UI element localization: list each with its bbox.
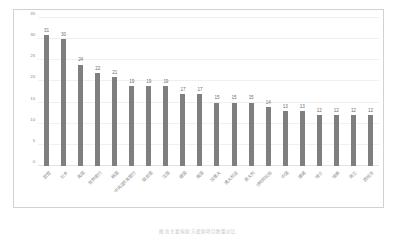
x-axis-tick-label: 中国 (280, 170, 290, 180)
bar-value-label: 17 (180, 88, 185, 93)
bar-group[interactable]: 19 (123, 18, 140, 166)
x-axis-label-slot: 欧盟 (38, 168, 55, 210)
bar-value-label: 22 (95, 67, 100, 72)
bar-group[interactable]: 13 (277, 18, 294, 166)
bar-group[interactable]: 24 (72, 18, 89, 166)
bar-group[interactable]: 17 (191, 18, 208, 166)
x-axis-tick-label: 瑞典 (331, 170, 341, 180)
bar[interactable] (351, 115, 356, 166)
bar[interactable] (300, 111, 305, 166)
x-axis-label-slot: 意大利 (243, 168, 260, 210)
bar[interactable] (214, 103, 219, 166)
chart-frame: 05101520253035 3130242221191919171715151… (13, 9, 384, 208)
bar[interactable] (95, 73, 100, 166)
bar[interactable] (283, 111, 288, 166)
x-axis-tick-label: 欧盟 (41, 170, 51, 180)
bar[interactable] (197, 94, 202, 166)
x-axis-label-slot: 瑞士 (311, 168, 328, 210)
bar-group[interactable]: 12 (345, 18, 362, 166)
bar[interactable] (334, 115, 339, 166)
bar-group[interactable]: 17 (174, 18, 191, 166)
bar-group[interactable]: 30 (55, 18, 72, 166)
y-axis-tick-label: 25 (30, 53, 35, 58)
bar-value-label: 12 (334, 109, 339, 114)
x-axis-label-slot: 美国 (72, 168, 89, 210)
bar[interactable] (266, 107, 271, 166)
bar[interactable] (368, 115, 373, 166)
bar-value-label: 17 (197, 88, 202, 93)
bar-series: 3130242221191919171715151514131312121212 (38, 18, 379, 166)
bar[interactable] (232, 103, 237, 166)
plot-area: 05101520253035 3130242221191919171715151… (38, 18, 379, 166)
bar-group[interactable]: 12 (362, 18, 379, 166)
y-axis-tick-label: 20 (30, 74, 35, 79)
x-axis-tick-label: 世界银行 (87, 170, 102, 185)
bar-group[interactable]: 12 (328, 18, 345, 166)
x-axis-label-slot: 瑞典 (328, 168, 345, 210)
x-axis-tick-label: 瑞士 (314, 170, 324, 180)
x-axis-tick-label: 韩国 (109, 170, 119, 180)
x-axis-label-slot: 荷兰 (345, 168, 362, 210)
x-axis-label-slot: 日本 (55, 168, 72, 210)
y-axis-tick-label: 15 (30, 95, 35, 100)
bar-value-label: 30 (61, 33, 66, 38)
x-axis-label-slot: 英国 (191, 168, 208, 210)
x-axis-tick-label: 英国 (194, 170, 204, 180)
bar-group[interactable]: 19 (140, 18, 157, 166)
chart-screenshot: 05101520253035 3130242221191919171715151… (0, 0, 395, 245)
bar-value-label: 21 (112, 71, 117, 76)
bar-value-label: 24 (78, 58, 83, 63)
x-axis-label-slot: 中央亚开发银行 (123, 168, 140, 210)
x-axis-label-slot: 中国 (277, 168, 294, 210)
x-axis-tick-label: 加拿大 (209, 170, 222, 183)
bar-group[interactable]: 31 (38, 18, 55, 166)
x-axis-tick-label: 美国 (75, 170, 85, 180)
bar[interactable] (112, 77, 117, 166)
bar-value-label: 12 (317, 109, 322, 114)
bar-group[interactable]: 21 (106, 18, 123, 166)
y-axis-tick-label: 10 (30, 116, 35, 121)
bar-group[interactable]: 13 (294, 18, 311, 166)
x-axis-tick-label: 荷兰 (348, 170, 358, 180)
bar-value-label: 15 (249, 96, 254, 101)
bar[interactable] (317, 115, 322, 166)
x-axis-label-slot: 法国 (157, 168, 174, 210)
x-axis-tick-label: 法国 (160, 170, 170, 180)
bar[interactable] (61, 39, 66, 166)
bar-value-label: 15 (215, 96, 220, 101)
bar-group[interactable]: 19 (157, 18, 174, 166)
x-axis-label-slot: 沙特阿拉伯 (260, 168, 277, 210)
x-axis-label-slot: 挪威 (294, 168, 311, 210)
x-axis-label-slot: 西班牙 (362, 168, 379, 210)
bar-value-label: 13 (283, 105, 288, 110)
y-axis-tick-label: 35 (30, 11, 35, 16)
x-axis-tick-label: 西班牙 (362, 170, 375, 183)
bar[interactable] (44, 35, 49, 166)
bar-group[interactable]: 15 (243, 18, 260, 166)
bar-value-label: 13 (300, 105, 305, 110)
figure-caption: 图 各主要捐助方援助项目数量对比 (0, 228, 395, 234)
x-axis-label-slot: 德国 (174, 168, 191, 210)
bar-group[interactable]: 22 (89, 18, 106, 166)
x-axis-label-slot: 联合国 (140, 168, 157, 210)
bar-value-label: 14 (266, 101, 271, 106)
bar[interactable] (249, 103, 254, 166)
bar-group[interactable]: 14 (260, 18, 277, 166)
bar-group[interactable]: 15 (208, 18, 225, 166)
bar[interactable] (180, 94, 185, 166)
x-axis-label-slot: 澳大利亚 (226, 168, 243, 210)
bar-value-label: 31 (44, 29, 49, 34)
bar-value-label: 12 (368, 109, 373, 114)
bar-value-label: 19 (146, 80, 151, 85)
y-axis-tick-label: 5 (33, 137, 35, 142)
bar-value-label: 15 (232, 96, 237, 101)
bar[interactable] (78, 65, 83, 166)
bar[interactable] (129, 86, 134, 166)
bar[interactable] (146, 86, 151, 166)
y-axis-tick-label: 0 (33, 159, 35, 164)
x-axis-label-slot: 加拿大 (208, 168, 225, 210)
bar[interactable] (163, 86, 168, 166)
bar-group[interactable]: 12 (311, 18, 328, 166)
x-axis-tick-label: 意大利 (243, 170, 256, 183)
bar-group[interactable]: 15 (226, 18, 243, 166)
